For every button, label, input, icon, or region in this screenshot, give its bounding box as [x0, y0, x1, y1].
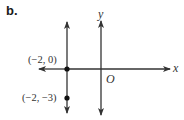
- point-neg2-neg3: [64, 95, 69, 100]
- x-axis-label: x: [173, 61, 178, 76]
- y-axis-label: y: [98, 7, 103, 22]
- point-neg2-0: [64, 66, 69, 71]
- point-label-1: (−2, 0): [28, 54, 57, 65]
- point-label-2: (−2, −3): [22, 92, 57, 103]
- origin-label: O: [106, 72, 115, 87]
